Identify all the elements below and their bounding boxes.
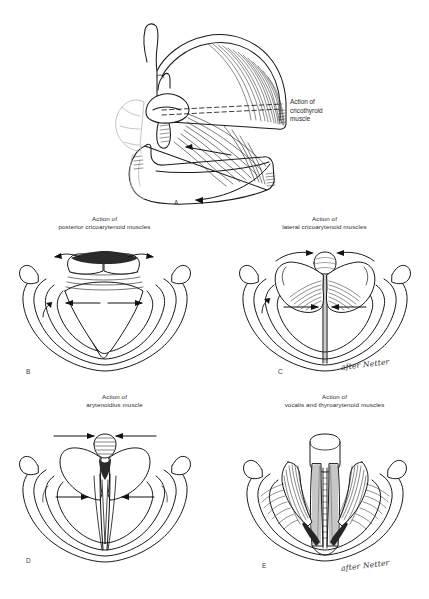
panel-d-caption: Action of arytenoidius muscle: [22, 393, 207, 410]
arrow-rotation-right-c: [336, 250, 374, 261]
panel-a-side-label: Action of cricothyroid muscle: [290, 98, 380, 124]
panel-d-illustration: [8, 424, 203, 564]
panel-b-caption: Action of posterior cricoarytenoid muscl…: [12, 215, 197, 232]
panel-b-illustration: [8, 245, 203, 375]
panel-letter-d: D: [26, 557, 31, 564]
panel-letter-e: E: [262, 562, 266, 569]
panel-letter-b: B: [26, 368, 30, 375]
panel-c-caption: Action of lateral cricoarytenoid muscles: [232, 215, 417, 232]
figure-page: A Action of cricothyroid muscle Action o…: [0, 0, 429, 599]
panel-letter-c: C: [278, 368, 283, 375]
arrow-anterior-pull: [185, 144, 231, 155]
arrow-top-approx-right: [115, 433, 156, 439]
arrow-rotation-left-c: [276, 250, 314, 261]
panel-e-caption: Action of vocalis and thyroarytenoid mus…: [242, 393, 427, 410]
panel-letter-a: A: [174, 199, 178, 206]
panel-e-illustration: [228, 424, 423, 564]
panel-c-illustration: [228, 245, 423, 375]
top-text-fragment: [0, 0, 429, 7]
arrow-top-approx-left: [54, 433, 95, 439]
